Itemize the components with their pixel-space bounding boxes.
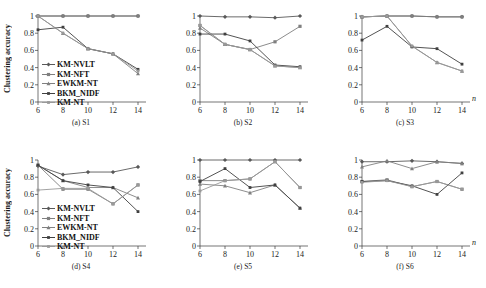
y-tick-label: 0.2	[14, 80, 34, 89]
x-tick-label: 8	[217, 106, 233, 115]
x-axis-label: n	[472, 238, 476, 247]
chart-panel-ds4: Clustering accuracy00.20.40.60.816810121…	[0, 144, 162, 288]
y-tick-label: 0.2	[176, 80, 196, 89]
x-tick-label: 12	[267, 106, 283, 115]
legend: KM-NVLTKM-NFTEWKM-NTBKM_NIDFKM-NT	[42, 60, 100, 108]
x-tick-label: 12	[105, 250, 121, 259]
y-tick-label: 0.4	[176, 207, 196, 216]
series-line-km-nt	[200, 25, 300, 67]
series-line-ewkm-nt	[362, 16, 462, 71]
y-tick-label: 0.8	[14, 173, 34, 182]
x-tick-label: 10	[242, 106, 258, 115]
x-tick-label: 14	[454, 250, 470, 259]
series-line-km-nft	[200, 162, 300, 188]
y-tick-label: 1	[176, 156, 196, 165]
x-tick-label: 6	[192, 250, 208, 259]
x-tick-label: 14	[292, 106, 308, 115]
legend-label: BKM_NIDF	[57, 89, 100, 98]
legend-item: KM-NFT	[42, 70, 100, 80]
figure-multi-panel-line-charts: Clustering accuracy00.20.40.60.816810121…	[0, 0, 486, 288]
y-tick-label: 0.4	[14, 207, 34, 216]
y-tick-label: 1	[14, 156, 34, 165]
legend-marker-icon	[42, 70, 55, 79]
y-tick-label: 0.8	[338, 29, 358, 38]
panel-caption: (d) S4	[0, 262, 162, 271]
series-line-bkm-nidf	[362, 173, 462, 195]
x-tick-label: 6	[192, 106, 208, 115]
chart-panel-as1: Clustering accuracy00.20.40.60.816810121…	[0, 0, 162, 144]
x-tick-label: 10	[404, 250, 420, 259]
y-tick-label: 0.2	[176, 224, 196, 233]
y-tick-label: 0.6	[14, 190, 34, 199]
panel-caption: (a) S1	[0, 118, 162, 127]
legend-label: KM-NFT	[57, 70, 89, 79]
y-tick-label: 0.2	[14, 224, 34, 233]
legend: KM-NVLTKM-NFTEWKM-NTBKM_NIDFKM-NT	[42, 204, 100, 252]
x-tick-label: 14	[130, 106, 146, 115]
legend-marker-icon	[42, 223, 55, 232]
chart-panel-es5: 00.20.40.60.8168101214(e) S5	[162, 144, 324, 288]
x-tick-label: 10	[404, 106, 420, 115]
legend-marker-icon	[42, 233, 55, 242]
y-tick-label: 0.6	[338, 46, 358, 55]
x-tick-label: 12	[429, 106, 445, 115]
legend-label: EWKM-NT	[57, 223, 98, 232]
series-line-km-nt	[362, 16, 462, 71]
x-axis-label: n	[472, 94, 476, 103]
y-tick-label: 1	[338, 12, 358, 21]
y-tick-label: 0.8	[176, 173, 196, 182]
legend-item: KM-NVLT	[42, 60, 100, 70]
x-tick-label: 14	[454, 106, 470, 115]
legend-item: BKM_NIDF	[42, 233, 100, 243]
legend-label: KM-NVLT	[57, 204, 95, 213]
legend-item: KM-NVLT	[42, 204, 100, 214]
panel-caption: (c) S3	[324, 118, 486, 127]
chart-panel-fs6: 00.20.40.60.8168101214n(f) S6	[324, 144, 486, 288]
y-tick-label: 0.8	[338, 173, 358, 182]
legend-item: BKM_NIDF	[42, 89, 100, 99]
legend-item: EWKM-NT	[42, 79, 100, 89]
legend-item: EWKM-NT	[42, 223, 100, 233]
y-tick-label: 0.6	[14, 46, 34, 55]
panel-caption: (b) S2	[162, 118, 324, 127]
x-tick-label: 6	[354, 250, 370, 259]
legend-label: BKM_NIDF	[57, 233, 100, 242]
legend-item: KM-NT	[42, 98, 100, 108]
y-tick-label: 0.6	[338, 190, 358, 199]
legend-item: KM-NT	[42, 242, 100, 252]
x-tick-label: 14	[130, 250, 146, 259]
panel-caption: (f) S6	[324, 262, 486, 271]
x-tick-label: 12	[267, 250, 283, 259]
legend-marker-icon	[42, 98, 55, 107]
x-tick-label: 8	[379, 106, 395, 115]
y-tick-label: 0.2	[338, 224, 358, 233]
y-tick-label: 0.2	[338, 80, 358, 89]
legend-label: KM-NVLT	[57, 60, 95, 69]
panel-caption: (e) S5	[162, 262, 324, 271]
x-tick-label: 12	[105, 106, 121, 115]
y-tick-label: 0.4	[176, 63, 196, 72]
y-tick-label: 1	[14, 12, 34, 21]
legend-marker-icon	[42, 89, 55, 98]
y-tick-label: 0.8	[176, 29, 196, 38]
x-tick-label: 10	[242, 250, 258, 259]
legend-marker-icon	[42, 214, 55, 223]
legend-label: KM-NT	[57, 242, 85, 251]
y-tick-label: 0.6	[176, 46, 196, 55]
x-tick-label: 8	[379, 250, 395, 259]
y-tick-label: 0.4	[14, 63, 34, 72]
chart-panel-bs2: 00.20.40.60.8168101214(b) S2	[162, 0, 324, 144]
y-tick-label: 0.6	[176, 190, 196, 199]
y-tick-label: 1	[338, 156, 358, 165]
legend-label: EWKM-NT	[57, 79, 98, 88]
chart-panel-cs3: 00.20.40.60.8168101214n(c) S3	[324, 0, 486, 144]
legend-marker-icon	[42, 79, 55, 88]
y-tick-label: 0.4	[338, 63, 358, 72]
legend-marker-icon	[42, 204, 55, 213]
x-tick-label: 12	[429, 250, 445, 259]
legend-marker-icon	[42, 242, 55, 251]
legend-marker-icon	[42, 60, 55, 69]
legend-label: KM-NFT	[57, 214, 89, 223]
y-tick-label: 1	[176, 12, 196, 21]
y-tick-label: 0.4	[338, 207, 358, 216]
